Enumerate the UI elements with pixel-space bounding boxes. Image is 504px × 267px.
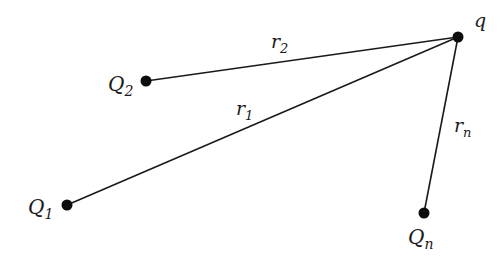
label-rn: rn — [454, 114, 471, 140]
label-Q2: Q2 — [108, 72, 133, 99]
label-Qn: Qn — [408, 225, 433, 252]
charge-Qn-dot — [419, 208, 430, 219]
charge-q-dot — [453, 32, 464, 43]
charge-Q2-dot — [141, 76, 152, 87]
label-Q1: Q1 — [28, 195, 53, 222]
label-q: q — [474, 9, 486, 31]
segment-r2 — [146, 37, 458, 81]
charge-Q1-dot — [62, 200, 73, 211]
charge-diagram: q Q2 Q1 Qn r2 r1 rn — [0, 0, 504, 267]
label-r2: r2 — [271, 30, 288, 56]
label-r1: r1 — [236, 97, 253, 123]
segment-r1 — [67, 37, 458, 205]
segment-rn — [424, 37, 458, 213]
